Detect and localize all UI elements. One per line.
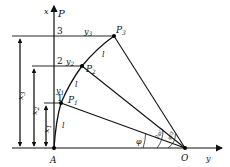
diagram-svg: x P y A O 3 2 1 y3 y2 y1 P3 P2 P1 l l l … bbox=[0, 0, 230, 167]
svg-text:y2: y2 bbox=[65, 57, 75, 67]
svg-text:x2: x2 bbox=[30, 106, 40, 115]
svg-text:x3: x3 bbox=[16, 91, 26, 100]
svg-text:P2: P2 bbox=[85, 64, 96, 75]
label-x1: x1 bbox=[42, 125, 52, 133]
level-2-label: 2 bbox=[57, 56, 63, 66]
diagram-canvas: x P y A O 3 2 1 y3 y2 y1 P3 P2 P1 l l l … bbox=[0, 0, 230, 167]
svg-text:P1: P1 bbox=[67, 95, 78, 106]
arc-label-l1: l bbox=[62, 121, 65, 130]
label-x2: x2 bbox=[30, 106, 40, 115]
label-a: A bbox=[49, 155, 57, 165]
svg-text:y3: y3 bbox=[83, 27, 93, 37]
axis-x-label: x bbox=[44, 7, 49, 16]
point-p2 bbox=[80, 64, 84, 68]
ray-o-p3 bbox=[114, 36, 185, 148]
arc-label-l3: l bbox=[102, 50, 105, 59]
arc-label-l2: l bbox=[75, 80, 78, 89]
ray-o-p1 bbox=[61, 103, 185, 148]
point-o bbox=[183, 146, 187, 150]
label-y1: y1 bbox=[55, 86, 64, 96]
axis-y-label: y bbox=[205, 154, 211, 163]
label-p3: P3 bbox=[115, 25, 126, 36]
label-x3: x3 bbox=[16, 91, 26, 100]
label-o: O bbox=[181, 153, 189, 163]
level-3-label: 3 bbox=[57, 26, 63, 36]
label-p1: P1 bbox=[67, 95, 78, 106]
label-y3: y3 bbox=[83, 27, 93, 37]
angle-phi-arc bbox=[143, 134, 146, 148]
point-a bbox=[52, 146, 56, 150]
svg-text:P3: P3 bbox=[115, 25, 126, 36]
label-y2: y2 bbox=[65, 57, 75, 67]
svg-text:x1: x1 bbox=[42, 125, 52, 133]
axis-p-label: P bbox=[57, 8, 65, 19]
svg-text:y1: y1 bbox=[55, 86, 64, 96]
angle-phi-label: φ bbox=[136, 137, 142, 146]
label-p2: P2 bbox=[85, 64, 96, 75]
